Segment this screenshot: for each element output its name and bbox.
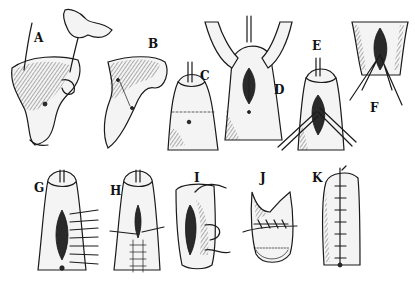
panel-j: J xyxy=(243,171,297,262)
panel-label-k: K xyxy=(312,171,323,185)
panel-b: B xyxy=(104,37,167,148)
panel-label-a: A xyxy=(33,31,44,45)
panel-label-h: H xyxy=(110,184,121,198)
panel-i: I xyxy=(176,171,230,269)
panel-e: E xyxy=(278,39,356,150)
panel-g: G xyxy=(34,170,98,270)
panel-label-f: F xyxy=(370,101,379,115)
panel-c: C xyxy=(168,62,218,150)
panel-label-i: I xyxy=(194,171,200,185)
panel-label-d: D xyxy=(274,83,284,97)
panel-label-b: B xyxy=(148,37,158,51)
panel-k: K xyxy=(312,166,360,267)
panel-d: D xyxy=(205,16,292,140)
panel-a: A xyxy=(12,9,112,145)
panel-label-j: J xyxy=(259,171,266,185)
panel-label-c: C xyxy=(200,69,210,83)
panel-h: H xyxy=(110,170,164,272)
panel-label-e: E xyxy=(312,39,321,53)
illustration-plate: A B C D E xyxy=(0,0,415,283)
panel-label-g: G xyxy=(34,181,44,195)
panel-f: F xyxy=(350,22,408,115)
